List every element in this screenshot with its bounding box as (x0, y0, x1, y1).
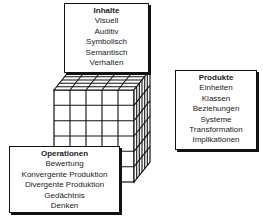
inhalte-item: Verhalten (65, 58, 148, 68)
operationen-title: Operationen (10, 149, 119, 159)
operationen-item: Konvergente Produktion (10, 170, 119, 180)
produkte-item: Implikationen (176, 135, 256, 145)
operationen-item: Divergente Produktion (10, 180, 119, 190)
operationen-item: Gedächtnis (10, 191, 119, 201)
produkte-item: Einheiten (176, 83, 256, 93)
inhalte-title: Inhalte (65, 6, 148, 16)
inhalte-item: Visuell (65, 16, 148, 26)
operationen-box: Operationen Bewertung Konvergente Produk… (9, 146, 120, 213)
inhalte-box: Inhalte Visuell Auditiv Symbolisch Seman… (64, 3, 149, 73)
inhalte-item: Semantisch (65, 48, 148, 58)
produkte-box: Produkte Einheiten Klassen Beziehungen S… (175, 70, 257, 150)
operationen-item: Denken (10, 201, 119, 211)
produkte-item: Systeme (176, 115, 256, 125)
produkte-item: Beziehungen (176, 104, 256, 114)
operationen-item: Bewertung (10, 159, 119, 169)
produkte-item: Transformation (176, 125, 256, 135)
produkte-item: Klassen (176, 94, 256, 104)
produkte-title: Produkte (176, 73, 256, 83)
inhalte-item: Auditiv (65, 27, 148, 37)
inhalte-item: Symbolisch (65, 37, 148, 47)
